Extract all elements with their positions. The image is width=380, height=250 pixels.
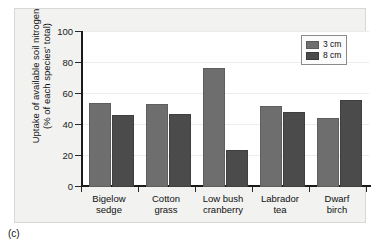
x-label-low-bush-cranberry-line2: cranberry xyxy=(192,204,254,215)
legend-label-3cm: 3 cm xyxy=(323,40,341,49)
x-label-labrador-tea-line1: Labrador xyxy=(249,193,311,204)
x-label-cotton-grass: Cotton grass xyxy=(135,193,197,215)
legend-swatch-3cm-icon xyxy=(306,41,319,49)
x-tick-1 xyxy=(138,187,139,192)
y-axis-title: Uptake of available soil nitrogen (% of … xyxy=(30,0,52,156)
x-label-dwarf-birch: Dwarf birch xyxy=(306,193,368,215)
y-axis-title-line1: Uptake of available soil nitrogen xyxy=(30,0,41,156)
x-tick-4 xyxy=(309,187,310,192)
bar-bigelow-sedge-3cm xyxy=(89,103,111,187)
x-label-low-bush-cranberry: Low bush cranberry xyxy=(192,193,254,215)
x-tick-3 xyxy=(252,187,253,192)
bar-dwarf-birch-8cm xyxy=(340,100,362,187)
legend-entry-8cm: 8 cm xyxy=(306,50,341,61)
x-tick-5 xyxy=(366,187,367,192)
x-tick-0 xyxy=(81,187,82,192)
bar-cotton-grass-3cm xyxy=(146,104,168,187)
x-label-dwarf-birch-line2: birch xyxy=(306,204,368,215)
x-label-cotton-grass-line1: Cotton xyxy=(135,193,197,204)
bar-labrador-tea-8cm xyxy=(283,112,305,187)
x-label-labrador-tea-line2: tea xyxy=(249,204,311,215)
y-tick-label-0: 0 xyxy=(47,182,73,192)
chart-panel: 100 80 60 40 20 0 Uptake of available so… xyxy=(14,8,366,223)
bar-group-low-bush-cranberry xyxy=(195,31,253,187)
bar-group-cotton-grass xyxy=(138,31,196,187)
bar-bigelow-sedge-8cm xyxy=(112,115,134,187)
x-label-bigelow-sedge-line2: sedge xyxy=(78,204,140,215)
figure-panel-c: 100 80 60 40 20 0 Uptake of available so… xyxy=(0,0,380,250)
legend-swatch-8cm-icon xyxy=(306,52,319,60)
x-label-labrador-tea: Labrador tea xyxy=(249,193,311,215)
bar-low-bush-cranberry-8cm xyxy=(226,150,248,187)
bar-low-bush-cranberry-3cm xyxy=(203,68,225,187)
figure-caption: (c) xyxy=(8,228,20,239)
bar-group-bigelow-sedge xyxy=(81,31,139,187)
legend: 3 cm 8 cm xyxy=(301,35,347,65)
legend-label-8cm: 8 cm xyxy=(323,51,341,60)
legend-entry-3cm: 3 cm xyxy=(306,39,341,50)
bar-dwarf-birch-3cm xyxy=(317,118,339,187)
x-label-dwarf-birch-line1: Dwarf xyxy=(306,193,368,204)
x-label-bigelow-sedge-line1: Bigelow xyxy=(78,193,140,204)
x-label-bigelow-sedge: Bigelow sedge xyxy=(78,193,140,215)
y-axis-title-line2: (% of each species' total) xyxy=(41,0,52,156)
bar-labrador-tea-3cm xyxy=(260,106,282,187)
x-tick-2 xyxy=(195,187,196,192)
x-label-low-bush-cranberry-line1: Low bush xyxy=(192,193,254,204)
x-label-cotton-grass-line2: grass xyxy=(135,204,197,215)
bar-cotton-grass-8cm xyxy=(169,114,191,187)
